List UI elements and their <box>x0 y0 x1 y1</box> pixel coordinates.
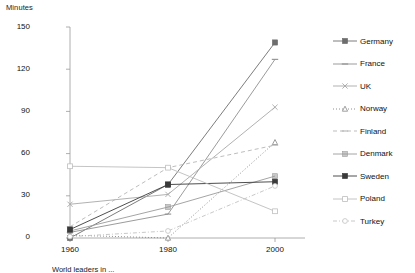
legend-label: Poland <box>358 194 385 203</box>
legend-marker-germany-icon <box>332 35 358 47</box>
legend-item-denmark[interactable]: Denmark <box>332 143 414 166</box>
legend-label: France <box>358 59 385 68</box>
legend-marker-sweden-icon <box>332 170 358 182</box>
legend-label: Denmark <box>358 149 392 158</box>
legend-item-france[interactable]: France <box>332 53 414 76</box>
legend-item-finland[interactable]: Finland <box>332 120 414 143</box>
legend-marker-denmark-icon <box>332 148 358 160</box>
series-uk <box>67 105 277 207</box>
line-chart: Minutes 150 120 90 60 30 0 1960 1980 200… <box>0 0 415 273</box>
legend-label: Germany <box>358 37 393 46</box>
series-germany <box>67 40 277 241</box>
legend-marker-poland-icon <box>332 193 358 205</box>
legend-item-uk[interactable]: UK <box>332 75 414 98</box>
legend-label: Finland <box>358 127 386 136</box>
legend-item-sweden[interactable]: Sweden <box>332 165 414 188</box>
series-turkey <box>68 184 278 239</box>
legend-item-germany[interactable]: Germany <box>332 30 414 53</box>
legend-item-poland[interactable]: Poland <box>332 188 414 211</box>
legend-marker-norway-icon <box>332 103 358 115</box>
axis-lines <box>66 27 305 242</box>
legend-label: Turkey <box>358 217 384 226</box>
legend-label: UK <box>358 82 371 91</box>
legend-label: Norway <box>358 104 387 113</box>
series-france <box>67 59 278 232</box>
chart-legend: GermanyFranceUKNorwayFinlandDenmarkSwede… <box>332 30 414 240</box>
legend-marker-finland-icon <box>332 125 358 137</box>
legend-marker-uk-icon <box>332 80 358 92</box>
series-norway <box>67 140 277 241</box>
legend-marker-turkey-icon <box>332 215 358 227</box>
legend-item-turkey[interactable]: Turkey <box>332 210 414 233</box>
series-finland <box>67 145 278 227</box>
legend-marker-france-icon <box>332 58 358 70</box>
legend-label: Sweden <box>358 172 389 181</box>
legend-item-norway[interactable]: Norway <box>332 98 414 121</box>
